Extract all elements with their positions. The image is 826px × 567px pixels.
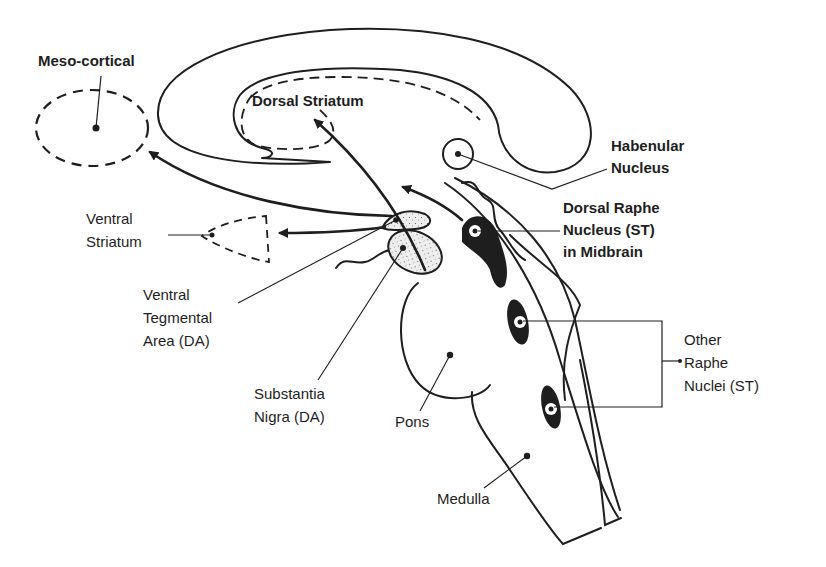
ventral-tegmental-area — [382, 211, 430, 230]
ventral-striatum-point — [210, 233, 215, 238]
pathway-to-ventral-striatum — [280, 227, 385, 233]
meso-cortical-region — [36, 90, 148, 166]
substantia-nigra-leader — [318, 248, 403, 380]
label-pons: Pons — [395, 413, 429, 431]
label-dorsal-striatum: Dorsal Striatum — [252, 92, 364, 110]
label-other-raphe-nuclei: Other Raphe Nuclei (ST) — [684, 328, 759, 397]
pons-outline — [401, 283, 490, 398]
substantia-nigra — [381, 222, 449, 282]
other-raphe-bracket-dot — [678, 359, 682, 363]
label-ventral-striatum: Ventral Striatum — [86, 207, 142, 253]
label-habenular-nucleus: Habenular Nucleus — [611, 135, 684, 179]
brain-pathways-diagram — [0, 0, 826, 567]
medulla-leader — [484, 456, 527, 488]
dorsal-raphe-nucleus — [462, 216, 507, 287]
label-medulla: Medulla — [437, 490, 490, 508]
medulla-outline — [472, 392, 601, 544]
cortex-outline — [158, 29, 591, 173]
label-meso-cortical: Meso-cortical — [38, 52, 135, 70]
pons-leader — [420, 355, 450, 411]
meso-cortical-leader — [96, 76, 101, 128]
other-raphe-lower-point — [549, 407, 554, 412]
dorsal-striatum-region — [241, 77, 480, 149]
cerebral-peduncle-squiggle — [336, 250, 390, 268]
label-ventral-tegmental-area: Ventral Tegmental Area (DA) — [143, 283, 212, 352]
dorsal-raphe-point — [473, 229, 478, 234]
habenular-leader — [458, 154, 607, 189]
ventral-striatum-region — [202, 216, 269, 262]
label-substantia-nigra: Substantia Nigra (DA) — [254, 382, 325, 428]
label-dorsal-raphe-nucleus: Dorsal Raphe Nucleus (ST) in Midbrain — [563, 197, 660, 263]
other-raphe-upper-point — [518, 320, 523, 325]
